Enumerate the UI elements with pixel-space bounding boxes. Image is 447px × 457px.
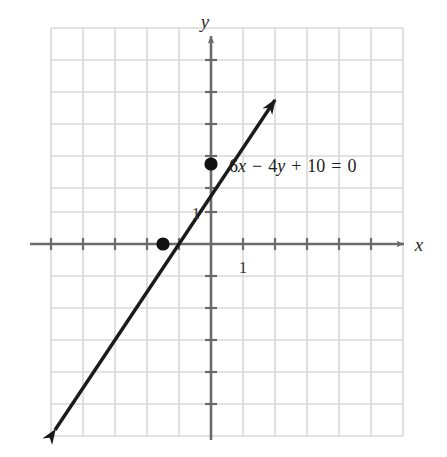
eq-minus: − bbox=[252, 156, 262, 176]
y-tick-label-one: 1 bbox=[192, 204, 201, 223]
eq-equals: = bbox=[331, 156, 341, 176]
graph-figure: y x 1 1 6x−4y+10=0 bbox=[0, 0, 447, 457]
point-y-intercept bbox=[204, 157, 217, 170]
eq-var-y: y bbox=[275, 156, 285, 176]
eq-plus: + bbox=[291, 156, 301, 176]
eq-coef-y: 4 bbox=[268, 156, 277, 176]
canvas-background bbox=[0, 0, 447, 457]
eq-constant: 10 bbox=[307, 156, 325, 176]
eq-var-x: x bbox=[237, 156, 246, 176]
eq-rhs: 0 bbox=[347, 156, 356, 176]
x-tick-label-one: 1 bbox=[239, 258, 248, 277]
x-axis-label: x bbox=[414, 234, 424, 255]
coordinate-plane-svg: y x 1 1 6x−4y+10=0 bbox=[0, 0, 447, 457]
point-x-intercept bbox=[156, 237, 169, 250]
eq-coef-x: 6 bbox=[229, 156, 238, 176]
y-axis-label: y bbox=[199, 11, 210, 32]
